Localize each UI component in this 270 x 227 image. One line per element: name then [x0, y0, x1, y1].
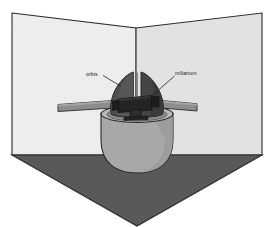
- miliarium-foot: [124, 116, 148, 120]
- miliarium-bracket-left: [113, 100, 120, 110]
- label-orbis: orbis: [86, 71, 98, 77]
- miliarium-bracket-right: [152, 96, 160, 107]
- label-miliarium: miliarium: [175, 70, 197, 76]
- diagram-canvas: orbis miliarium: [0, 0, 270, 227]
- scene-illustration: [0, 0, 270, 227]
